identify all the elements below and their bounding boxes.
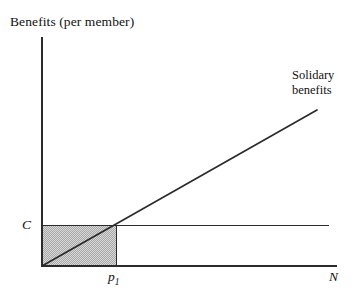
series-label-line-2: benefits <box>292 83 334 98</box>
x-axis-line <box>41 265 337 267</box>
series-label-solidary-benefits: Solidary benefits <box>292 68 334 98</box>
y-axis-title: Benefits (per member) <box>10 14 134 30</box>
series-label-line-1: Solidary <box>292 68 334 83</box>
p1-vertical-reference-line <box>116 225 117 266</box>
c-horizontal-reference-line <box>41 225 329 226</box>
y-axis-line <box>41 37 43 267</box>
x-tick-label-p1: p1 <box>108 269 120 287</box>
chart-figure: Benefits (per member) Solidary benefits … <box>0 0 364 300</box>
x-tick-label-p1-base: p <box>108 269 115 284</box>
x-axis-title-n: N <box>329 269 338 285</box>
y-tick-label-c: C <box>22 217 31 233</box>
shaded-cost-rectangle <box>42 226 117 266</box>
x-tick-label-p1-subscript: 1 <box>115 277 120 287</box>
